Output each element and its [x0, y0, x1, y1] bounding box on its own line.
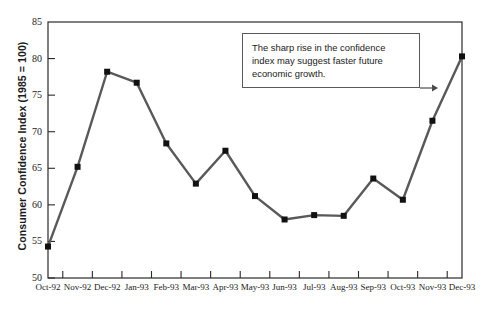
consumer-confidence-chart: Consumer Confidence Index (1985 = 100) 5…: [0, 0, 485, 310]
annotation-arrow: [420, 85, 438, 92]
annotation-line-2: index may suggest faster future: [252, 54, 410, 67]
annotation-callout-box: The sharp rise in the confidence index m…: [242, 33, 420, 88]
annotation-line-3: economic growth.: [252, 67, 410, 80]
annotation-line-1: The sharp rise in the confidence: [252, 41, 410, 54]
x-tick-marks: [63, 271, 447, 278]
